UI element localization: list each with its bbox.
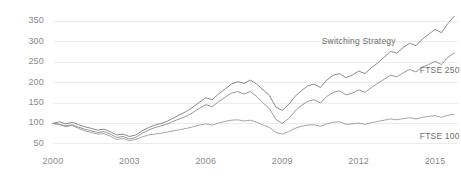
- series-label-ftse-250: FTSE 250: [420, 65, 460, 75]
- y-axis-tick-label: 150: [10, 97, 44, 107]
- x-axis-tick-label: 2003: [107, 156, 151, 166]
- x-axis-tick-label: 2015: [413, 156, 457, 166]
- series-label-switching-strategy: Switching Strategy: [322, 36, 396, 46]
- y-axis-tick-label: 250: [10, 56, 44, 66]
- line-chart-plot: [0, 0, 461, 180]
- x-axis-tick-label: 2000: [31, 156, 75, 166]
- x-axis-tick-label: 2006: [184, 156, 228, 166]
- y-axis-tick-label: 300: [10, 36, 44, 46]
- series-label-ftse-100: FTSE 100: [420, 131, 460, 141]
- series-line: [53, 114, 454, 140]
- x-axis-tick-label: 2012: [337, 156, 381, 166]
- y-axis-tick-label: 100: [10, 117, 44, 127]
- y-axis-tick-label: 200: [10, 77, 44, 87]
- series-line: [53, 53, 454, 139]
- y-axis-tick-label: 50: [10, 138, 44, 148]
- y-axis-tick-label: 350: [10, 15, 44, 25]
- chart-container: 5010015020025030035020002003200620092012…: [0, 0, 461, 180]
- x-axis-tick-label: 2009: [260, 156, 304, 166]
